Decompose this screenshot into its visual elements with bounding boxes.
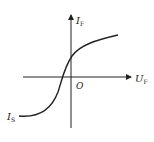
characteristic-curve xyxy=(19,35,118,116)
saturation-current-label: IS xyxy=(6,111,15,123)
y-axis-label: IF xyxy=(75,15,84,27)
origin-label: O xyxy=(76,81,84,91)
x-axis-label: UF xyxy=(135,73,148,85)
iv-characteristic-diagram: IF UF O IS xyxy=(0,0,154,142)
